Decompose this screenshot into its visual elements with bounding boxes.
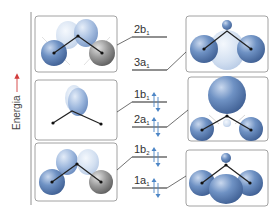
small-lobe (221, 153, 231, 163)
atom-dot (202, 47, 205, 50)
level-label: 3a1 (134, 56, 150, 69)
atom-dot (249, 47, 252, 50)
level-3a1: 3a1 (132, 52, 186, 70)
atom-dot (51, 121, 54, 124)
level-label-subscript: 2 (146, 150, 150, 156)
spin-down-arrow-icon (156, 152, 161, 167)
small-lobe (223, 119, 231, 127)
atom-dot (248, 181, 251, 184)
panel-right-2a1 (188, 76, 268, 141)
spin-up-arrow-icon (152, 117, 157, 132)
small-lobe (222, 20, 232, 30)
orbital-lobe-large (208, 76, 246, 114)
level-label-main: 2a (134, 113, 147, 125)
level-label-subscript: 1 (146, 30, 150, 36)
level-label-subscript: 1 (146, 63, 150, 69)
level-label: 1b1 (134, 88, 150, 101)
level-label-subscript: 1 (146, 95, 150, 101)
level-connector (167, 176, 186, 188)
level-2a1: 2a1 (132, 110, 188, 137)
atom-dot (99, 122, 102, 125)
atom-dot (200, 181, 203, 184)
level-1b2: 1b2 (117, 143, 167, 170)
level-connector (117, 37, 132, 45)
level-1b1: 1b1 (117, 88, 167, 112)
panel-left-1b1 (35, 80, 117, 140)
level-label: 1a1 (134, 174, 150, 187)
level-label: 1b2 (134, 143, 150, 156)
level-label-main: 3a (134, 56, 147, 68)
spin-up-arrow-icon (152, 178, 157, 193)
level-2b1: 2b1 (117, 23, 167, 45)
level-label-main: 1b (134, 143, 146, 155)
mo-diagram: Energia (0, 0, 278, 217)
level-connector (117, 157, 132, 170)
level-connector (167, 110, 188, 127)
atom-dot (249, 128, 252, 131)
level-label: 2a1 (134, 113, 150, 126)
panel-right-1a1 (186, 150, 268, 206)
atom-dot (99, 180, 102, 183)
panel-left-1b2 (35, 143, 117, 201)
orbital-lobe (77, 149, 99, 175)
atom-dot (75, 162, 78, 165)
panel-left-2b1 (35, 16, 117, 72)
atom-dot (100, 51, 103, 54)
atom-dot (224, 163, 227, 166)
spin-down-arrow-icon (156, 122, 161, 137)
level-1a1: 1a1 (132, 174, 186, 198)
energy-axis-label: Energia (11, 95, 22, 130)
orbital-lobe-center (209, 174, 243, 204)
spin-up-arrow-icon (152, 147, 157, 162)
level-label-main: 1a (134, 174, 147, 186)
level-label-subscript: 1 (146, 120, 150, 126)
panel-right-3a1 (186, 16, 268, 72)
atom-dot (225, 114, 228, 117)
level-label-main: 1b (134, 88, 146, 100)
level-label-main: 2b (134, 23, 146, 35)
level-connector (117, 102, 132, 112)
spin-up-arrow-icon (152, 92, 157, 107)
energy-axis: Energia (11, 12, 31, 205)
level-connector (167, 52, 186, 70)
level-label-subscript: 1 (146, 181, 150, 187)
level-label: 2b1 (134, 23, 150, 36)
spin-down-arrow-icon (156, 183, 161, 198)
atom-dot (200, 128, 203, 131)
spin-down-arrow-icon (156, 97, 161, 112)
atom-dot (52, 51, 55, 54)
energy-levels: 2b13a11b12a11b21a1 (117, 23, 188, 198)
atom-dot (76, 34, 79, 37)
atom-dot (50, 180, 53, 183)
